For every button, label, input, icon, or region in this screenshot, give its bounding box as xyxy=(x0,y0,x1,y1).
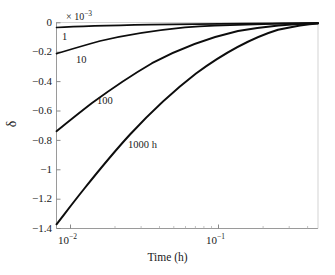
y-axis-title-wrap: δ xyxy=(2,116,22,136)
x-tick-label-1e-1-exponent: −1 xyxy=(217,232,225,241)
x-axis-major-ticks xyxy=(71,225,219,229)
y-tick-label-neg0-2: −0.2 xyxy=(8,46,52,57)
curve-10 xyxy=(57,23,319,53)
y-tick-label-neg1-4: −1.4 xyxy=(8,223,52,234)
x-tick-label-1e-2-base: 10 xyxy=(58,234,69,246)
y-axis-multiplier-exponent: −3 xyxy=(84,9,92,18)
axis-spines xyxy=(57,22,319,229)
x-tick-label-1e-1-base: 10 xyxy=(206,234,217,246)
y-tick-label-neg1-2: −1.2 xyxy=(8,193,52,204)
y-axis-title: δ xyxy=(4,106,20,142)
curve-1000 xyxy=(57,23,319,224)
x-tick-label-1e-2-exponent: −2 xyxy=(69,232,77,241)
y-tick-label-neg0-4: −0.4 xyxy=(8,76,52,87)
y-tick-label-0: 0 xyxy=(8,17,52,28)
x-axis-title: Time (h) xyxy=(0,252,335,264)
curve-label-10: 10 xyxy=(76,55,87,66)
curve-label-100: 100 xyxy=(97,96,113,107)
y-axis-multiplier: × 10−3 xyxy=(66,10,92,22)
curve-label-1: 1 xyxy=(62,32,67,43)
x-tick-label-1e-1: 10−1 xyxy=(206,233,225,246)
curve-label-1000h: 1000 h xyxy=(128,140,157,151)
x-tick-label-1e-2: 10−2 xyxy=(58,233,77,246)
y-axis-multiplier-base: × 10 xyxy=(66,11,84,22)
curve-100 xyxy=(57,23,319,131)
data-curves xyxy=(57,23,319,224)
y-tick-label-neg1: −1 xyxy=(8,164,52,175)
figure-chart-delta-vs-time: × 10−3 0 −0.2 −0.4 −0.6 −0.8 −1 −1.2 −1.… xyxy=(0,0,335,275)
